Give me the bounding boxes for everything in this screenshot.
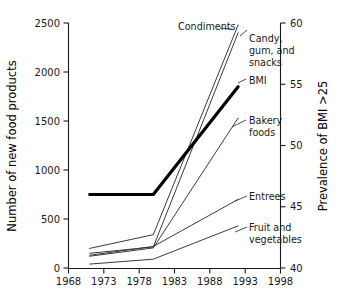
line-chart: 0 500 1000 1500 2000 2500 40 45 50 55 60… [0,0,342,307]
x-tick-label-1988: 1988 [197,276,222,287]
series-label-fruit-line1: Fruit and [249,222,291,233]
left-tick-label-1500: 1500 [35,116,60,127]
series-line-bmi [90,87,238,195]
series-label-bakery-line1: Bakery [249,115,283,126]
chart-container: 0 500 1000 1500 2000 2500 40 45 50 55 60… [0,0,342,307]
series-lines [90,25,238,264]
leader-line-candy [240,30,247,36]
series-label-fruit-line2: vegetables [249,234,302,245]
x-tick-label-1978: 1978 [126,276,151,287]
x-tick-label-1968: 1968 [56,276,81,287]
right-tick-label-50: 50 [290,140,303,151]
left-tick-label-0: 0 [54,263,60,274]
x-tick-label-1993: 1993 [232,276,257,287]
series-label-bakery-line2: foods [249,127,275,138]
series-label-candy-line2: gum, and [249,45,295,56]
right-tick-label-45: 45 [290,201,303,212]
right-tick-label-40: 40 [290,263,303,274]
series-line-bakery-foods [90,118,238,256]
series-label-bmi: BMI [249,75,267,86]
x-tick-label-1983: 1983 [162,276,187,287]
series-label-condiments: Condiments [178,21,236,32]
left-tick-label-2500: 2500 [35,18,60,29]
series-label-entrees: Entrees [249,191,285,202]
right-axis-title: Prevalence of BMI >25 [316,81,330,212]
left-tick-label-500: 500 [41,214,60,225]
series-label-candy-line3: snacks [249,57,282,68]
x-tick-label-1973: 1973 [91,276,116,287]
series-label-candy-line1: Candy, [249,33,282,44]
leader-line-fruit [235,227,247,232]
leader-line-entrees [235,196,247,201]
series-line-condiments [90,25,238,248]
x-axis [69,269,281,274]
left-axis-title: Number of new food products [5,60,19,231]
right-tick-label-55: 55 [290,79,303,90]
series-line-candy-gum-and-snacks [90,33,238,254]
left-tick-label-2000: 2000 [35,67,60,78]
x-tick-label-1998: 1998 [268,276,293,287]
leader-line-bmi [238,79,246,83]
left-axis [64,23,69,268]
left-tick-label-1000: 1000 [35,165,60,176]
right-tick-label-60: 60 [290,18,303,29]
